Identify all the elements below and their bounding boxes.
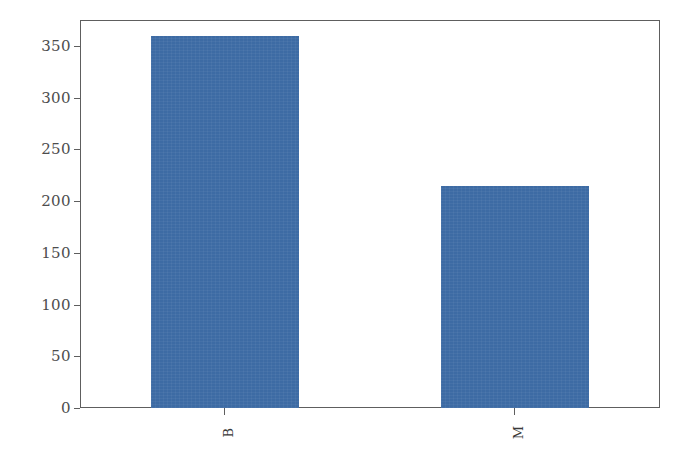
- y-axis-tick-label: 0: [61, 399, 71, 417]
- y-axis-tick-label: 250: [41, 140, 71, 158]
- y-axis-tick-label: 350: [41, 37, 71, 55]
- plot-area: 050100150200250300350BM: [80, 20, 660, 408]
- y-axis-tick-label: 50: [51, 347, 71, 365]
- x-axis-tick-label: B: [215, 428, 236, 438]
- y-axis-tick-label: 300: [41, 89, 71, 107]
- y-axis-tick-mark: [74, 201, 80, 202]
- bar-M: [441, 186, 589, 408]
- y-axis-tick-mark: [74, 98, 80, 99]
- y-axis-tick-mark: [74, 149, 80, 150]
- bar-B: [151, 36, 299, 408]
- y-axis-tick-mark: [74, 305, 80, 306]
- y-axis-tick-label: 200: [41, 192, 71, 210]
- y-axis-tick-mark: [74, 46, 80, 47]
- x-axis-tick-label: M: [505, 426, 526, 440]
- y-axis-tick-mark: [74, 408, 80, 409]
- y-axis-tick-mark: [74, 253, 80, 254]
- y-axis-tick-label: 150: [41, 244, 71, 262]
- x-axis-tick-mark: [514, 408, 515, 415]
- y-axis-tick-label: 100: [41, 296, 71, 314]
- y-axis-tick-mark: [74, 356, 80, 357]
- chart-figure: 050100150200250300350BM: [0, 0, 691, 466]
- x-axis-tick-mark: [224, 408, 225, 415]
